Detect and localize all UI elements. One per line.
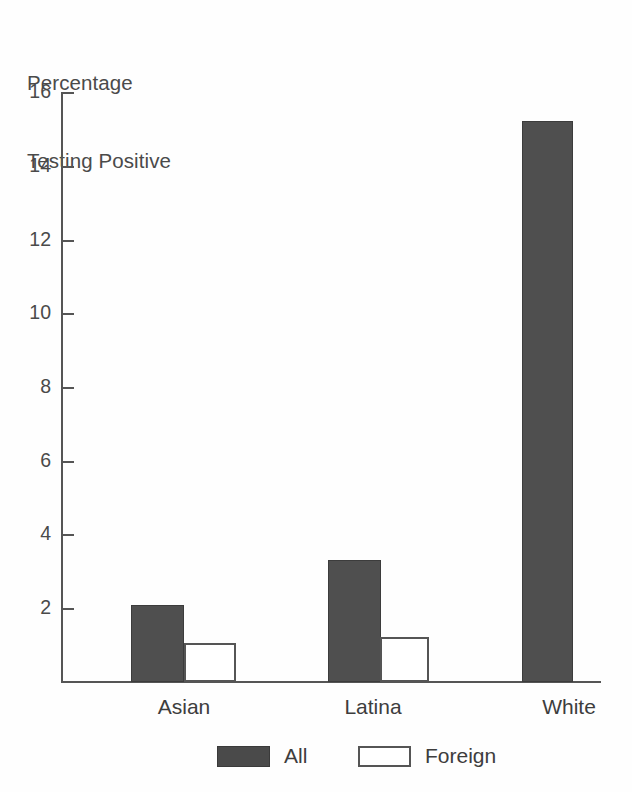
- y-tick-label-10: 10: [11, 303, 51, 323]
- legend-swatch-all: [217, 746, 270, 767]
- bar-latina-all: [328, 560, 381, 682]
- y-tick-label-16: 16: [11, 82, 51, 102]
- y-tick-12: [61, 240, 74, 242]
- x-label-white: White: [542, 694, 596, 720]
- x-label-asian: Asian: [158, 694, 211, 720]
- y-tick-label-6-wrap: 6: [6, 451, 51, 471]
- bar-latina-foreign: [380, 637, 429, 682]
- y-tick-label-14: 14: [11, 156, 51, 176]
- y-tick-label-6: 6: [11, 451, 51, 471]
- y-tick-14: [61, 166, 74, 168]
- y-tick-label-2-wrap: 2: [6, 598, 51, 618]
- legend-item-all: All: [217, 742, 307, 770]
- y-tick-label-16-wrap: 16: [6, 82, 51, 102]
- bar-asian-all: [131, 605, 184, 682]
- y-tick-label-4-wrap: 4: [6, 524, 51, 544]
- y-tick-label-12: 12: [11, 230, 51, 250]
- chart-page: Percentage Testing Positive 16 14 12 10 …: [0, 0, 632, 792]
- y-tick-10: [61, 313, 74, 315]
- y-tick-label-10-wrap: 10: [6, 303, 51, 323]
- y-tick-label-8: 8: [11, 377, 51, 397]
- legend-label-all: All: [284, 745, 307, 767]
- y-tick-label-2: 2: [11, 598, 51, 618]
- y-tick-label-14-wrap: 14: [6, 156, 51, 176]
- y-tick-8: [61, 387, 74, 389]
- y-tick-6: [61, 461, 74, 463]
- y-tick-label-12-wrap: 12: [6, 230, 51, 250]
- y-tick-2: [61, 608, 74, 610]
- chart-legend: All Foreign: [0, 742, 632, 772]
- y-tick-label-4: 4: [11, 524, 51, 544]
- x-label-latina: Latina: [344, 694, 401, 720]
- legend-label-foreign: Foreign: [425, 745, 496, 767]
- bar-asian-foreign: [184, 643, 236, 682]
- legend-swatch-foreign: [358, 746, 411, 767]
- plot-area: 16 14 12 10 8 6 4 2: [0, 0, 632, 792]
- y-tick-label-8-wrap: 8: [6, 377, 51, 397]
- bar-white-all: [522, 121, 573, 682]
- y-tick-16: [61, 92, 74, 94]
- legend-item-foreign: Foreign: [358, 742, 496, 770]
- y-tick-4: [61, 534, 74, 536]
